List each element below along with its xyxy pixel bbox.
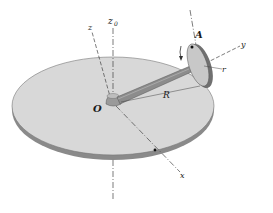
- label-A: A: [194, 29, 203, 40]
- point-A: [191, 46, 194, 49]
- label-z0: z: [107, 16, 113, 26]
- label-z: z: [87, 23, 93, 32]
- label-x: x: [180, 171, 185, 180]
- label-z0-subscript: 0: [114, 20, 118, 27]
- label-r: r: [222, 65, 227, 74]
- diagram: z 0 z y x O A R r: [0, 0, 273, 213]
- label-R: R: [162, 90, 170, 100]
- x-axis-rim-point: [154, 149, 157, 152]
- rotation-arrowhead-icon: [179, 56, 183, 61]
- label-y: y: [240, 40, 246, 49]
- mechanics-diagram: z 0 z y x O A R r: [0, 0, 273, 213]
- label-O: O: [93, 103, 102, 114]
